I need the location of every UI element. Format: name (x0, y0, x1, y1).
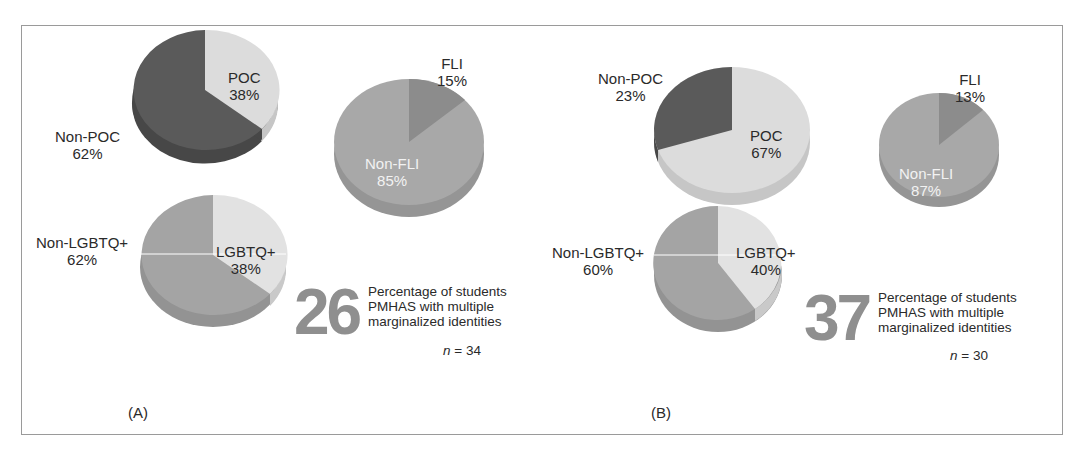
panel-label-b: (B) (651, 404, 671, 421)
label-b-non-poc: Non-POC 23% (598, 70, 663, 104)
desc-line: marginalized identities (878, 320, 1017, 335)
label-text: Non-POC (598, 70, 663, 87)
label-pct: 38% (216, 260, 276, 277)
label-text: FLI (955, 71, 985, 88)
label-pct: 38% (228, 86, 261, 103)
label-a-poc: POC 38% (228, 69, 261, 103)
label-a-non-lgbtq: Non-LGBTQ+ 62% (36, 234, 128, 268)
label-a-lgbtq: LGBTQ+ 38% (216, 243, 276, 277)
label-b-poc: POC 67% (750, 127, 783, 161)
n-val: = 34 (451, 343, 481, 358)
n-var: n (443, 343, 451, 358)
label-a-non-fli: Non-FLI 85% (365, 155, 419, 189)
desc-line: Percentage of students (368, 284, 507, 299)
label-a-fli: FLI 15% (437, 55, 467, 89)
label-pct: 40% (736, 261, 796, 278)
label-a-non-poc: Non-POC 62% (55, 128, 120, 162)
n-val: = 30 (958, 348, 988, 363)
big-number-b: 37 (804, 288, 869, 348)
label-text: Non-LGBTQ+ (36, 234, 128, 251)
label-b-fli: FLI 13% (955, 71, 985, 105)
label-pct: 13% (955, 88, 985, 105)
label-pct: 67% (750, 144, 783, 161)
description-a: Percentage of students PMHAS with multip… (368, 284, 507, 329)
label-pct: 62% (36, 251, 128, 268)
desc-line: marginalized identities (368, 314, 507, 329)
label-text: Non-POC (55, 128, 120, 145)
desc-line: PMHAS with multiple (368, 299, 507, 314)
label-b-non-fli: Non-FLI 87% (899, 165, 953, 199)
sample-size-a: n = 34 (443, 343, 481, 358)
label-b-non-lgbtq: Non-LGBTQ+ 60% (552, 244, 644, 278)
pie-charts (0, 0, 1082, 455)
label-text: LGBTQ+ (216, 243, 276, 260)
label-text: FLI (437, 55, 467, 72)
big-number-a: 26 (294, 282, 359, 342)
description-b: Percentage of students PMHAS with multip… (878, 290, 1017, 335)
label-pct: 15% (437, 72, 467, 89)
label-text: Non-FLI (899, 165, 953, 182)
panel-label-a: (A) (128, 404, 148, 421)
label-pct: 23% (598, 87, 663, 104)
label-text: POC (228, 69, 261, 86)
label-pct: 60% (552, 261, 644, 278)
label-b-lgbtq: LGBTQ+ 40% (736, 244, 796, 278)
desc-line: Percentage of students (878, 290, 1017, 305)
n-var: n (950, 348, 958, 363)
desc-line: PMHAS with multiple (878, 305, 1017, 320)
label-text: Non-LGBTQ+ (552, 244, 644, 261)
label-pct: 87% (899, 182, 953, 199)
pie-a-fli (334, 79, 484, 217)
label-text: Non-FLI (365, 155, 419, 172)
label-pct: 85% (365, 172, 419, 189)
label-text: LGBTQ+ (736, 244, 796, 261)
label-pct: 62% (55, 145, 120, 162)
label-text: POC (750, 127, 783, 144)
sample-size-b: n = 30 (950, 348, 988, 363)
pie-b-poc (654, 67, 810, 205)
